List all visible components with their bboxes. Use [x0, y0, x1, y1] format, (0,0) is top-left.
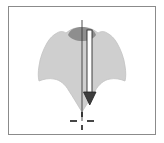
figure-panel — [0, 0, 164, 143]
figure-canvas — [0, 0, 164, 143]
arrow-shaft — [87, 30, 92, 93]
